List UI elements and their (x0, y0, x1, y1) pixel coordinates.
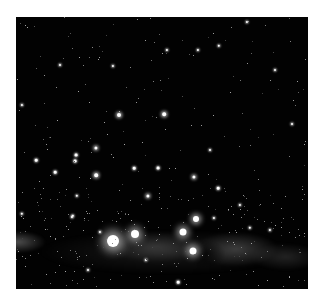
faint-star (247, 210, 248, 211)
star (133, 167, 136, 170)
faint-star (145, 155, 146, 156)
faint-star (25, 258, 26, 259)
faint-star (46, 144, 47, 145)
faint-star (161, 208, 162, 209)
faint-star (46, 274, 47, 275)
faint-star (148, 221, 149, 222)
faint-star (86, 211, 87, 212)
star (59, 64, 61, 66)
faint-star (224, 136, 225, 137)
faint-star (47, 127, 48, 128)
faint-star (295, 105, 296, 106)
faint-star (224, 188, 225, 189)
faint-star (181, 199, 182, 200)
faint-star (230, 92, 231, 93)
faint-star (64, 17, 65, 18)
faint-star (70, 250, 71, 251)
faint-star (139, 277, 140, 278)
star (190, 248, 197, 255)
faint-star (68, 36, 69, 37)
faint-star (193, 55, 194, 56)
faint-star (298, 92, 299, 93)
faint-star (252, 41, 253, 42)
faint-star (142, 188, 143, 189)
faint-star (178, 199, 179, 200)
faint-star (30, 226, 31, 227)
faint-star (118, 213, 119, 214)
faint-star (184, 279, 185, 280)
star (54, 171, 57, 174)
faint-star (134, 224, 135, 225)
faint-star (47, 229, 48, 230)
faint-star (50, 175, 51, 176)
faint-star (167, 208, 168, 209)
faint-star (170, 225, 171, 226)
faint-star (234, 256, 235, 257)
faint-star (106, 111, 107, 112)
faint-star (156, 240, 157, 241)
faint-star (89, 213, 90, 214)
faint-star (154, 42, 155, 43)
faint-star (138, 254, 139, 255)
faint-star (84, 218, 85, 219)
faint-star (79, 256, 80, 257)
faint-star (74, 271, 75, 272)
faint-star (77, 283, 78, 284)
faint-star (289, 277, 290, 278)
faint-star (145, 235, 146, 236)
faint-star (89, 102, 90, 103)
faint-star (186, 284, 187, 285)
faint-star (270, 80, 271, 81)
faint-star (257, 219, 258, 220)
faint-star (83, 65, 84, 66)
faint-star (47, 149, 48, 150)
faint-star (194, 108, 195, 109)
faint-star (231, 27, 232, 28)
faint-star (112, 243, 113, 244)
faint-star (180, 150, 181, 151)
faint-star (34, 26, 35, 27)
faint-star (88, 220, 89, 221)
star (166, 49, 168, 51)
faint-star (68, 214, 69, 215)
faint-star (236, 232, 237, 233)
faint-star (144, 89, 145, 90)
star (117, 113, 121, 117)
faint-star (120, 253, 121, 254)
faint-star (267, 280, 268, 281)
faint-star (43, 188, 44, 189)
faint-star (130, 200, 131, 201)
faint-star (25, 266, 26, 267)
faint-star (142, 142, 143, 143)
star (180, 229, 187, 236)
faint-star (161, 271, 162, 272)
faint-star (152, 116, 153, 117)
faint-star (99, 46, 100, 47)
faint-star (303, 89, 304, 90)
faint-star (304, 144, 305, 145)
faint-star (302, 189, 303, 190)
faint-star (23, 218, 24, 219)
faint-star (283, 286, 284, 287)
faint-star (98, 59, 99, 60)
faint-star (281, 235, 282, 236)
faint-star (214, 279, 215, 280)
faint-star (24, 152, 25, 153)
faint-star (96, 286, 97, 287)
faint-star (219, 275, 220, 276)
faint-star (183, 222, 184, 223)
faint-star (146, 259, 147, 260)
faint-star (110, 279, 111, 280)
faint-star (50, 199, 51, 200)
faint-star (233, 214, 234, 215)
faint-star (298, 280, 299, 281)
faint-star (97, 245, 98, 246)
faint-star (153, 282, 154, 283)
faint-star (113, 157, 114, 158)
faint-star (23, 105, 24, 106)
faint-star (247, 63, 248, 64)
faint-star (92, 47, 93, 48)
faint-star (122, 184, 123, 185)
faint-star (262, 93, 263, 94)
faint-star (44, 75, 45, 76)
